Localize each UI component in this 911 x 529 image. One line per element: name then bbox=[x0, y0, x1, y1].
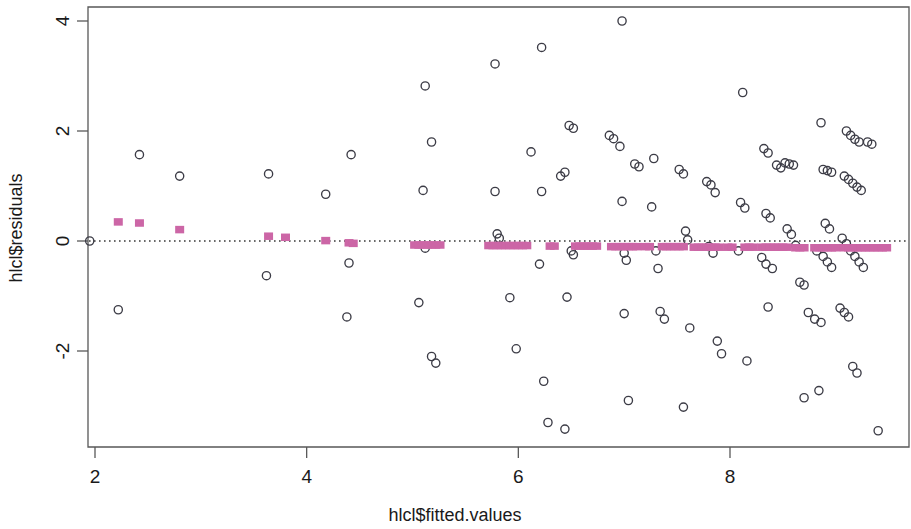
data-point-square bbox=[550, 242, 559, 250]
data-point-square bbox=[679, 243, 688, 251]
data-point-square bbox=[831, 244, 840, 252]
residuals-plot: 2468 -2024 hlcl$fitted.values hlcl$resid… bbox=[0, 0, 911, 529]
data-point-square bbox=[592, 242, 601, 250]
data-point-square bbox=[882, 244, 891, 252]
data-point-square bbox=[749, 243, 758, 251]
data-point-square bbox=[715, 243, 724, 251]
data-point-square bbox=[349, 240, 358, 248]
data-point-square bbox=[436, 241, 445, 249]
x-tick-label: 4 bbox=[301, 466, 312, 487]
y-tick-label: 0 bbox=[52, 236, 73, 247]
data-point-square bbox=[135, 219, 144, 227]
data-point-square bbox=[175, 226, 184, 234]
data-point-square bbox=[800, 244, 809, 252]
y-axis-title: hlcl$residuals bbox=[6, 173, 26, 282]
y-tick-label: 2 bbox=[52, 126, 73, 137]
x-tick-label: 6 bbox=[513, 466, 524, 487]
y-tick-label: -2 bbox=[52, 343, 73, 360]
x-tick-label: 2 bbox=[90, 466, 101, 487]
data-point-square bbox=[783, 243, 792, 251]
data-point-square bbox=[321, 237, 330, 245]
data-point-square bbox=[264, 232, 273, 240]
y-tick-label: 4 bbox=[52, 15, 73, 26]
x-tick-label: 8 bbox=[725, 466, 736, 487]
data-point-square bbox=[522, 242, 531, 250]
data-point-square bbox=[114, 218, 123, 226]
data-point-square bbox=[281, 234, 290, 242]
data-point-square bbox=[645, 243, 654, 251]
x-axis-title: hlcl$fitted.values bbox=[388, 505, 521, 525]
data-point-square bbox=[632, 243, 641, 251]
plot-canvas: 2468 -2024 hlcl$fitted.values hlcl$resid… bbox=[0, 0, 911, 529]
data-point-square bbox=[728, 243, 737, 251]
